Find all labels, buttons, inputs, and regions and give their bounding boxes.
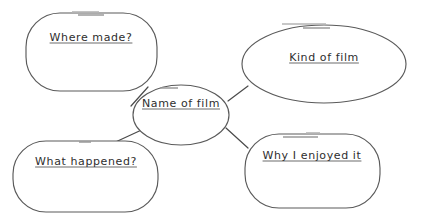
- bubble-kind-of-film[interactable]: [242, 25, 406, 103]
- mind-map-canvas: Where made? Kind of film Name of film Wh…: [0, 0, 421, 223]
- label-kind-of-film: Kind of film: [289, 51, 359, 64]
- label-name-of-film: Name of film: [142, 97, 220, 110]
- bubble-where-made[interactable]: [26, 13, 157, 91]
- label-where-made: Where made?: [50, 31, 133, 44]
- connector-center-to-why-enjoyed-it: [226, 128, 248, 148]
- bubble-why-enjoyed-it[interactable]: [245, 134, 380, 208]
- bubble-what-happened[interactable]: [13, 141, 158, 212]
- label-what-happened: What happened?: [35, 155, 137, 168]
- connector-center-to-kind-of-film: [228, 86, 248, 101]
- bubble-name-of-film[interactable]: [133, 85, 229, 145]
- label-why-enjoyed-it: Why I enjoyed it: [263, 149, 362, 162]
